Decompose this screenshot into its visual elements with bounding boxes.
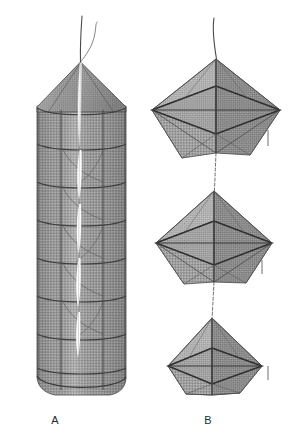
trap-illustration-canvas: A (0, 0, 288, 443)
figure-root: A (0, 0, 288, 443)
panel-a-label: A (51, 414, 59, 426)
panel-b-label: B (204, 414, 212, 426)
cylinder-body-a (37, 106, 126, 395)
